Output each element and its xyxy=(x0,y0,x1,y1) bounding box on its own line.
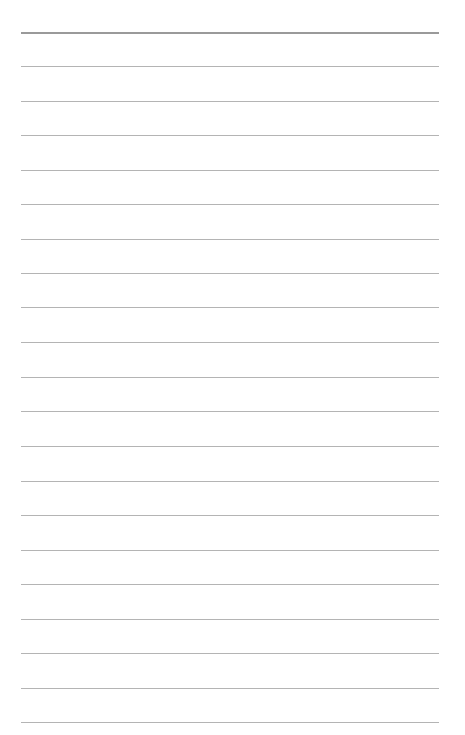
rule-line xyxy=(21,619,439,620)
rule-line xyxy=(21,170,439,171)
rule-line xyxy=(21,653,439,654)
rule-line xyxy=(21,135,439,136)
rule-line xyxy=(21,411,439,412)
rule-line xyxy=(21,550,439,551)
rule-line xyxy=(21,481,439,482)
rule-line xyxy=(21,273,439,274)
top-rule-line xyxy=(21,32,439,34)
rule-line xyxy=(21,204,439,205)
lined-page xyxy=(0,0,465,735)
rule-line xyxy=(21,722,439,723)
rule-line xyxy=(21,101,439,102)
rule-line xyxy=(21,688,439,689)
rule-line xyxy=(21,307,439,308)
rule-line xyxy=(21,584,439,585)
rule-line xyxy=(21,66,439,67)
rule-line xyxy=(21,515,439,516)
rule-line xyxy=(21,239,439,240)
rule-line xyxy=(21,446,439,447)
rule-line xyxy=(21,342,439,343)
rule-line xyxy=(21,377,439,378)
